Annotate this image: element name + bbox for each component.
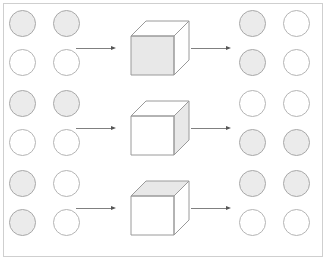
cube-face-front bbox=[131, 116, 174, 155]
arrow-head bbox=[111, 46, 116, 50]
circle-right-r0-c0-shaded bbox=[239, 170, 266, 197]
circle-right-r0-c1-empty bbox=[283, 90, 310, 117]
circle-left-r1-c0-empty bbox=[9, 129, 36, 156]
arrow-head bbox=[111, 206, 116, 210]
circle-grid-right bbox=[239, 88, 317, 168]
circle-left-r1-c1-empty bbox=[53, 209, 80, 236]
circle-left-r0-c0-shaded bbox=[9, 90, 36, 117]
circle-grid-right bbox=[239, 8, 317, 88]
arrow-head bbox=[111, 126, 116, 130]
circle-right-r1-c1-empty bbox=[283, 49, 310, 76]
arrow-shaft bbox=[76, 208, 112, 209]
circle-left-r0-c1-shaded bbox=[53, 10, 80, 37]
arrow-right-icon-output bbox=[191, 126, 232, 132]
circle-left-r1-c0-shaded bbox=[9, 209, 36, 236]
circle-right-r0-c0-empty bbox=[239, 90, 266, 117]
cube-face-front bbox=[131, 36, 174, 75]
figure-canvas bbox=[0, 0, 327, 261]
circle-left-r1-c0-empty bbox=[9, 49, 36, 76]
arrow-shaft bbox=[76, 128, 112, 129]
circle-left-r0-c1-empty bbox=[53, 170, 80, 197]
circle-right-r1-c1-empty bbox=[283, 209, 310, 236]
sequence-row-2 bbox=[0, 88, 327, 168]
circle-right-r0-c1-empty bbox=[283, 10, 310, 37]
arrow-right-icon-output bbox=[191, 206, 232, 212]
sequence-row-1 bbox=[0, 8, 327, 88]
arrow-right-icon-input bbox=[76, 206, 117, 212]
arrow-head bbox=[226, 126, 231, 130]
cube-shaded-side bbox=[129, 99, 191, 157]
circle-right-r1-c0-empty bbox=[239, 209, 266, 236]
circle-right-r1-c0-shaded bbox=[239, 129, 266, 156]
arrow-right-icon-output bbox=[191, 46, 232, 52]
circle-right-r0-c0-shaded bbox=[239, 10, 266, 37]
arrow-shaft bbox=[191, 48, 227, 49]
circle-left-r0-c0-shaded bbox=[9, 170, 36, 197]
circle-left-r0-c0-shaded bbox=[9, 10, 36, 37]
circle-left-r1-c1-empty bbox=[53, 129, 80, 156]
arrow-head bbox=[226, 206, 231, 210]
arrow-shaft bbox=[191, 128, 227, 129]
circle-grid-right bbox=[239, 168, 317, 248]
arrow-shaft bbox=[76, 48, 112, 49]
sequence-row-3 bbox=[0, 168, 327, 248]
circle-right-r0-c1-shaded bbox=[283, 170, 310, 197]
circle-left-r1-c1-empty bbox=[53, 49, 80, 76]
arrow-head bbox=[226, 46, 231, 50]
arrow-shaft bbox=[191, 208, 227, 209]
cube-shaded-top bbox=[129, 179, 191, 237]
circle-left-r0-c1-shaded bbox=[53, 90, 80, 117]
arrow-right-icon-input bbox=[76, 126, 117, 132]
cube-shaded-front bbox=[129, 19, 191, 77]
circle-right-r1-c0-shaded bbox=[239, 49, 266, 76]
arrow-right-icon-input bbox=[76, 46, 117, 52]
cube-face-front bbox=[131, 196, 174, 235]
circle-right-r1-c1-shaded bbox=[283, 129, 310, 156]
